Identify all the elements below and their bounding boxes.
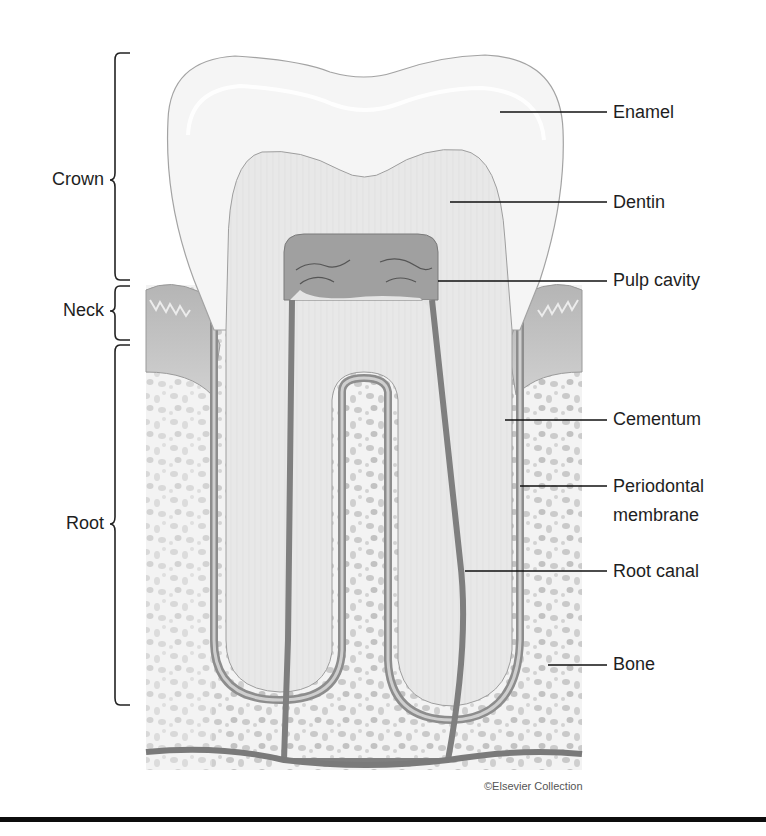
label-root-canal: Root canal [613, 561, 699, 582]
label-periodontal-line1: Periodontal [613, 476, 704, 497]
label-crown: Crown [36, 169, 104, 190]
label-enamel: Enamel [613, 102, 674, 123]
credit-text: ©Elsevier Collection [484, 780, 583, 792]
region-brackets [110, 53, 130, 705]
label-dentin: Dentin [613, 192, 665, 213]
crown-bracket [110, 53, 130, 280]
bottom-rule [0, 817, 766, 822]
label-bone: Bone [613, 654, 655, 675]
neck-bracket [110, 286, 130, 340]
label-neck: Neck [36, 300, 104, 321]
label-root: Root [36, 513, 104, 534]
label-cementum: Cementum [613, 409, 701, 430]
label-periodontal-line2: membrane [613, 505, 699, 526]
label-pulp-cavity: Pulp cavity [613, 270, 700, 291]
root-bracket [110, 345, 130, 705]
